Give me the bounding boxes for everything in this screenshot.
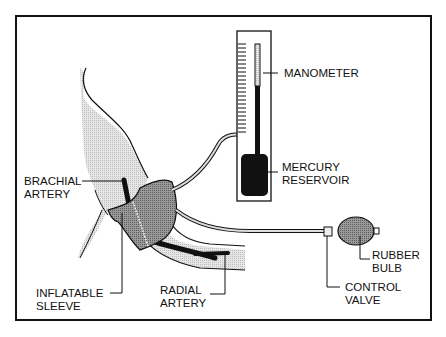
label-inflatable-sleeve-1: INFLATABLE xyxy=(36,287,103,300)
label-brachial-artery-2: ARTERY xyxy=(24,188,70,201)
rubber-bulb-shape xyxy=(324,217,379,245)
label-rubber-bulb-1: RUBBER xyxy=(372,249,420,262)
label-control-valve-2: VALVE xyxy=(345,294,380,307)
label-inflatable-sleeve-2: SLEEVE xyxy=(36,300,81,313)
label-radial-artery-1: RADIAL xyxy=(160,284,202,297)
label-mercury-reservoir-1: MERCURY xyxy=(282,161,340,174)
label-radial-artery-2: ARTERY xyxy=(160,297,206,310)
manometer-shape xyxy=(237,31,271,201)
label-control-valve-1: CONTROL xyxy=(345,281,401,294)
bulb-tube xyxy=(176,210,325,231)
label-rubber-bulb-2: BULB xyxy=(372,262,402,275)
label-brachial-artery-1: BRACHIAL xyxy=(24,175,82,188)
label-manometer: MANOMETER xyxy=(284,67,359,80)
label-mercury-reservoir-2: RESERVOIR xyxy=(282,174,350,187)
